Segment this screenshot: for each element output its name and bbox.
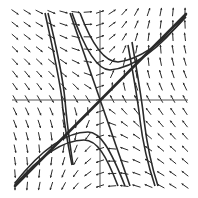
arrowhead-icon [148,45,150,47]
arrowhead-icon [172,8,174,10]
arrowhead-icon [38,151,40,153]
trajectory-right-hyperbola-outer [128,45,155,186]
arrowhead-icon [108,185,110,187]
arrowhead-icon [184,33,186,35]
arrowhead-icon [172,20,174,22]
trajectory-upper-right-curve-2 [80,13,186,62]
arrowhead-icon [160,33,162,35]
arrowhead-icon [159,45,161,47]
arrowhead-icon [123,70,125,72]
arrowhead-icon [172,33,174,35]
arrowhead-icon [90,23,92,25]
arrowhead-icon [26,188,28,190]
arrowhead-icon [14,188,16,190]
arrowhead-icon [184,20,186,22]
arrowhead-icon [111,82,113,84]
phase-portrait-figure [0,0,198,198]
arrowhead-icon [184,8,186,10]
arrowhead-icon [38,176,40,178]
trajectory-lower-left-curve-2 [15,140,118,186]
arrowhead-icon [120,185,122,187]
arrowhead-icon [108,173,110,175]
arrowhead-icon [90,48,92,50]
arrowhead-icon [26,163,28,165]
arrowhead-icon [148,33,150,35]
vector-field-plot [0,0,198,198]
arrowhead-icon [90,11,92,13]
arrowhead-icon [14,176,16,178]
